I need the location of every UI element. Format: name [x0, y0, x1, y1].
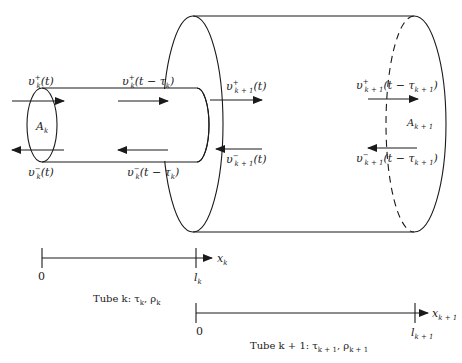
flow-arrows — [12, 99, 418, 150]
tube-k1-caption: Tube k + 1: τk + 1, ρk + 1 — [250, 340, 368, 354]
label-bwd-k-out: υ−k(t − τk) — [127, 165, 179, 181]
axis-k-var: xk — [217, 252, 227, 267]
tube-k-right-cap — [197, 88, 209, 162]
axis-k — [42, 248, 212, 268]
axis-k-end: lk — [194, 271, 202, 286]
tube-k-caption: Tube k: τk, ρk — [93, 293, 161, 307]
label-area-k1: Ak + 1 — [406, 117, 433, 131]
axis-k1 — [196, 303, 428, 323]
tube-diagram: υ+k(t) υ+k(t − τk) Ak υ−k(t) υ−k(t − τk)… — [0, 0, 462, 363]
axis-k1-origin: 0 — [196, 325, 203, 338]
label-fwd-k1-out: υ+k + 1(t − τk + 1) — [356, 78, 438, 94]
tube-k1-body — [163, 16, 446, 232]
label-bwd-k1-out: υ−k + 1(t − τk + 1) — [356, 151, 438, 167]
label-bwd-k-in: υ−k(t) — [28, 165, 54, 181]
axis-k1-var: xk + 1 — [432, 307, 457, 322]
label-bwd-k1-in: υ−k + 1(t) — [226, 152, 267, 168]
label-fwd-k1-in: υ+k + 1(t) — [226, 79, 267, 95]
axis-k-origin: 0 — [38, 270, 45, 283]
label-fwd-k-in: υ+k(t) — [28, 74, 54, 90]
axis-k1-end: lk + 1 — [411, 326, 434, 341]
label-area-k: Ak — [35, 120, 48, 135]
